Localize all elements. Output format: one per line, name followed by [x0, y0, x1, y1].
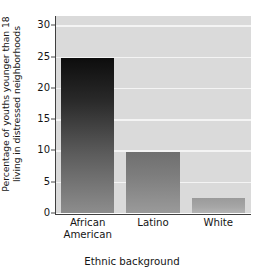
y-axis-tick-mark — [51, 56, 55, 57]
y-axis-line — [55, 16, 56, 214]
y-axis-tick-mark — [51, 119, 55, 120]
x-axis-tick-label: White — [186, 217, 251, 229]
y-axis-tick-label: 25 — [28, 52, 50, 62]
x-axis-title: Ethnic background — [0, 256, 264, 268]
y-axis-title-line-1: Percentage of youths younger than 18 — [0, 0, 11, 208]
y-axis-tick-mark — [51, 213, 55, 214]
bar-series — [55, 16, 251, 213]
plot-area — [55, 16, 251, 213]
bar-african-american — [61, 58, 114, 213]
y-axis-tick-label: 20 — [28, 83, 50, 93]
y-axis-tick-label: 0 — [28, 208, 50, 218]
y-axis-tick-mark — [51, 181, 55, 182]
x-axis-tick-label-line: African — [55, 217, 120, 229]
y-axis-tick-label: 30 — [28, 20, 50, 30]
x-axis-tick-label: Latino — [120, 217, 185, 229]
x-axis-tick-label-line: Latino — [120, 217, 185, 229]
y-axis-tick-mark — [51, 87, 55, 88]
bar-chart-figure: Percentage of youths younger than 18 liv… — [0, 0, 264, 278]
y-axis-tick-label: 15 — [28, 114, 50, 124]
y-axis-tick-mark — [51, 150, 55, 151]
x-axis-line — [55, 214, 251, 215]
bar-white — [192, 198, 245, 213]
x-axis-tick-label: AfricanAmerican — [55, 217, 120, 242]
y-axis-tick-label: 10 — [28, 145, 50, 155]
y-axis-tick-labels: 051015202530 — [28, 0, 50, 278]
y-axis-tick-mark — [51, 25, 55, 26]
y-axis-title-line-2: living in distressed neighborhoods — [11, 0, 22, 208]
x-axis-tick-label-line: American — [55, 229, 120, 241]
bar-latino — [126, 152, 179, 213]
y-axis-tick-label: 5 — [28, 177, 50, 187]
x-axis-tick-label-line: White — [186, 217, 251, 229]
x-axis-tick-labels: AfricanAmericanLatinoWhite — [55, 217, 251, 253]
